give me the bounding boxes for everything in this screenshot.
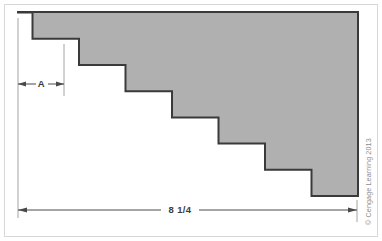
- dimension-a-group: A: [18, 78, 64, 89]
- dimension-a-label: A: [38, 78, 45, 89]
- dimension-overall-group: 8 1/4: [18, 204, 357, 215]
- dimension-overall-arrowhead-right: [348, 208, 357, 213]
- copyright-credit-text: © Cengage Learning 2013: [364, 138, 373, 225]
- technical-drawing-canvas: A 8 1/4 © Cengage Learning 2013: [0, 0, 382, 241]
- dimension-overall-label: 8 1/4: [168, 204, 191, 215]
- dimension-a-arrowhead-right: [56, 82, 64, 87]
- dimension-overall-arrowhead-left: [18, 208, 27, 213]
- figure-root: A 8 1/4 © Cengage Learning 2013: [0, 0, 382, 241]
- dimension-a-arrowhead-left: [18, 82, 26, 87]
- stepped-solid-shape: [18, 12, 358, 196]
